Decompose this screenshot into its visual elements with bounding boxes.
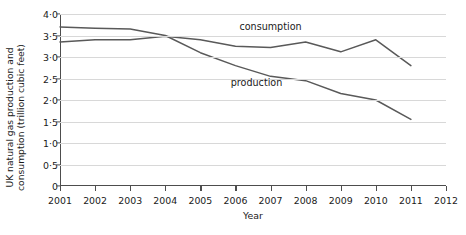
y-tick-label: 4·0 — [24, 9, 58, 20]
series-line-consumption — [60, 36, 411, 65]
x-tick-mark — [446, 186, 447, 191]
x-tick-label: 2011 — [399, 195, 423, 206]
gridline — [60, 57, 446, 58]
y-tick-mark — [56, 56, 60, 57]
x-tick-label: 2007 — [259, 195, 283, 206]
x-tick-mark — [306, 186, 307, 191]
x-tick-mark — [411, 186, 412, 191]
x-tick-label: 2004 — [153, 195, 177, 206]
gridline — [60, 14, 446, 15]
gridline — [60, 36, 446, 37]
y-tick-mark — [56, 78, 60, 79]
x-tick-mark — [200, 186, 201, 191]
x-tick-label: 2012 — [434, 195, 458, 206]
x-axis-title: Year — [60, 210, 446, 221]
y-tick-label: 0·5 — [24, 159, 58, 170]
x-tick-mark — [165, 186, 166, 191]
series-line-production — [60, 27, 411, 119]
y-tick-mark — [56, 142, 60, 143]
x-tick-label: 2009 — [329, 195, 353, 206]
y-tick-label: 2·0 — [24, 95, 58, 106]
x-tick-label: 2001 — [48, 195, 72, 206]
y-tick-mark — [56, 164, 60, 165]
y-tick-label: 3·5 — [24, 30, 58, 41]
x-tick-mark — [341, 186, 342, 191]
gridline — [60, 100, 446, 101]
y-tick-label: 1·5 — [24, 116, 58, 127]
y-tick-label: 1·0 — [24, 138, 58, 149]
x-tick-mark — [271, 186, 272, 191]
x-tick-mark — [60, 186, 61, 191]
x-tick-mark — [235, 186, 236, 191]
y-tick-label: 2·5 — [24, 73, 58, 84]
y-tick-mark — [56, 35, 60, 36]
series-label-consumption: consumption — [239, 21, 301, 32]
y-tick-mark — [56, 13, 60, 14]
gridline — [60, 143, 446, 144]
gridline — [60, 122, 446, 123]
series-label-production: production — [231, 76, 283, 87]
y-tick-label: 0 — [24, 181, 58, 192]
x-tick-label: 2005 — [188, 195, 212, 206]
plot-area: 2001200220032004200520062007200820092010… — [60, 14, 446, 186]
x-tick-label: 2008 — [294, 195, 318, 206]
x-tick-mark — [95, 186, 96, 191]
x-tick-mark — [376, 186, 377, 191]
x-tick-label: 2010 — [364, 195, 388, 206]
x-tick-label: 2006 — [224, 195, 248, 206]
y-tick-mark — [56, 99, 60, 100]
gridline — [60, 165, 446, 166]
y-tick-mark — [56, 121, 60, 122]
y-tick-label: 3·0 — [24, 52, 58, 63]
x-tick-label: 2003 — [118, 195, 142, 206]
x-tick-mark — [130, 186, 131, 191]
x-tick-label: 2002 — [83, 195, 107, 206]
chart-container: UK natural gas production and consumptio… — [0, 0, 466, 235]
